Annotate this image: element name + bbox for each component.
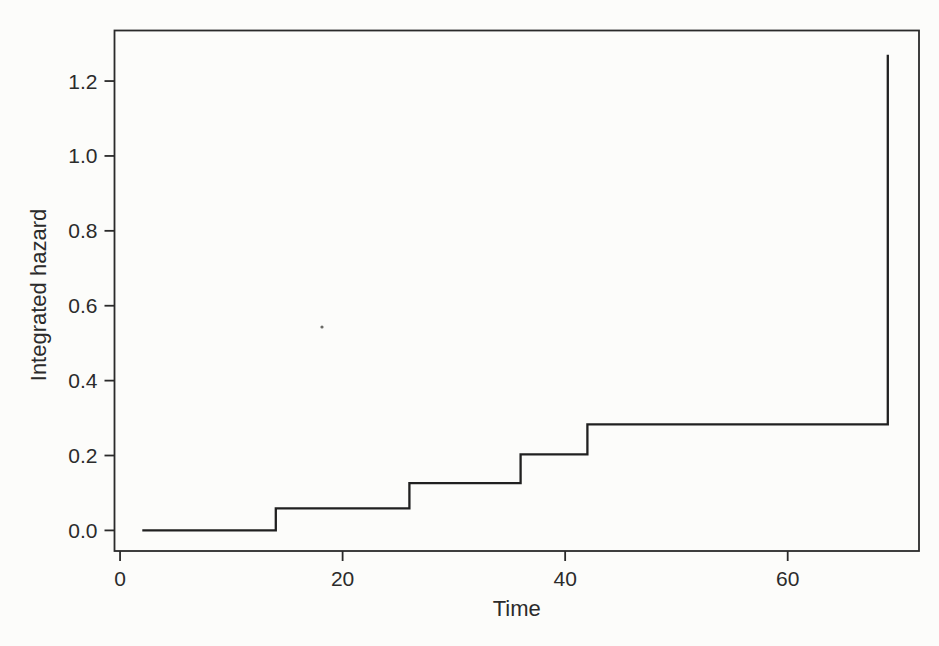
y-tick-label: 0.4 xyxy=(68,369,98,392)
x-tick-label: 0 xyxy=(114,567,126,590)
x-axis-ticks: 0204060 xyxy=(114,551,799,590)
x-tick-label: 40 xyxy=(553,567,576,590)
scanned-figure-page: 0204060 0.00.20.40.60.81.01.2 Time Integ… xyxy=(0,0,939,646)
x-tick-label: 60 xyxy=(776,567,799,590)
y-tick-label: 0.8 xyxy=(68,219,97,242)
y-axis-title: Integrated hazard xyxy=(26,209,51,381)
y-tick-label: 0.2 xyxy=(68,444,97,467)
x-axis-title: Time xyxy=(493,596,541,621)
y-tick-label: 0.6 xyxy=(68,294,97,317)
y-tick-label: 1.2 xyxy=(68,70,97,93)
x-tick-label: 20 xyxy=(331,567,354,590)
scan-speck xyxy=(320,325,323,328)
plot-frame xyxy=(115,31,920,552)
hazard-step-line xyxy=(142,55,888,531)
y-tick-label: 1.0 xyxy=(68,144,97,167)
y-tick-label: 0.0 xyxy=(68,519,97,542)
integrated-hazard-chart: 0204060 0.00.20.40.60.81.01.2 Time Integ… xyxy=(0,0,939,646)
y-axis-ticks: 0.00.20.40.60.81.01.2 xyxy=(68,70,114,542)
